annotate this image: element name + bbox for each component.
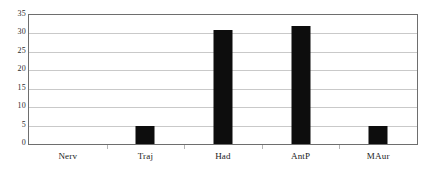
bar-antp[interactable] bbox=[291, 26, 310, 144]
bar-traj[interactable] bbox=[136, 126, 155, 144]
bar-slot-maur bbox=[339, 15, 417, 144]
y-axis-tick-label: 0 bbox=[2, 139, 26, 147]
y-axis-tick-label: 15 bbox=[2, 84, 26, 92]
y-axis-tick-label: 20 bbox=[2, 65, 26, 73]
y-axis-tick-label: 10 bbox=[2, 102, 26, 110]
y-axis-tick-label: 25 bbox=[2, 47, 26, 55]
y-axis: 35 30 25 20 15 10 5 0 bbox=[0, 14, 26, 145]
bars-layer bbox=[29, 15, 417, 144]
x-axis-tick bbox=[107, 145, 108, 149]
x-axis-label-nerv: Nerv bbox=[29, 150, 107, 162]
bar-slot-antp bbox=[262, 15, 340, 144]
bar-slot-had bbox=[184, 15, 262, 144]
bar-maur[interactable] bbox=[369, 126, 388, 144]
y-axis-tick-label: 30 bbox=[2, 28, 26, 36]
y-axis-tick-label: 35 bbox=[2, 10, 26, 18]
x-axis-ticks bbox=[29, 145, 417, 149]
x-axis-label-traj: Traj bbox=[107, 150, 185, 162]
bar-had[interactable] bbox=[213, 30, 232, 144]
x-axis-tick bbox=[262, 145, 263, 149]
y-axis-tick-label: 5 bbox=[2, 121, 26, 129]
x-axis-label-maur: MAur bbox=[339, 150, 417, 162]
bar-chart-figure: 35 30 25 20 15 10 5 0 bbox=[0, 0, 431, 171]
x-axis-tick bbox=[339, 145, 340, 149]
x-axis-tick bbox=[184, 145, 185, 149]
bar-slot-traj bbox=[107, 15, 185, 144]
x-axis-label-antp: AntP bbox=[262, 150, 340, 162]
bar-slot-nerv bbox=[29, 15, 107, 144]
x-axis-label-had: Had bbox=[184, 150, 262, 162]
x-axis: Nerv Traj Had AntP MAur bbox=[29, 150, 417, 166]
